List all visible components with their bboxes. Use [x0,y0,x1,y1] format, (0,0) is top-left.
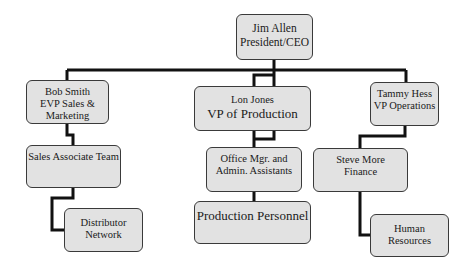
node-title: Human [394,223,425,235]
node-office-mgr: Office Mgr. and Admin. Assistants [206,147,302,192]
node-title: Sales Associate Team [28,151,119,163]
node-title: EVP Sales & [40,98,95,110]
node-title: Resources [388,235,431,247]
node-human-resources: Human Resources [370,214,449,257]
node-name: Tammy Hess [377,88,432,100]
node-title: Production Personnel [197,208,309,223]
node-title: Marketing [46,110,90,122]
node-name: Steve More [336,154,385,166]
node-title: VP of Production [207,106,298,121]
node-title: Finance [344,166,377,178]
node-sales-associate-team: Sales Associate Team [26,145,121,188]
node-title: Admin. Assistants [216,165,292,177]
node-tammy-hess: Tammy Hess VP Operations [370,82,439,126]
node-ceo: Jim Allen President/CEO [236,14,313,60]
node-bob-smith: Bob Smith EVP Sales & Marketing [26,80,109,124]
node-name: Jim Allen [252,21,296,35]
node-title: President/CEO [240,35,309,49]
org-chart: Jim Allen President/CEO Bob Smith EVP Sa… [0,0,473,271]
node-production-personnel: Production Personnel [194,201,311,244]
node-title: VP Operations [374,100,436,112]
node-distributor-network: Distributor Network [64,208,143,252]
node-title: Network [85,229,122,241]
node-name: Bob Smith [45,86,90,98]
node-lon-jones: Lon Jones VP of Production [194,86,311,131]
node-steve-more: Steve More Finance [313,148,408,192]
node-title: Distributor [80,217,126,229]
node-title: Office Mgr. and [220,153,287,165]
node-name: Lon Jones [231,94,274,106]
